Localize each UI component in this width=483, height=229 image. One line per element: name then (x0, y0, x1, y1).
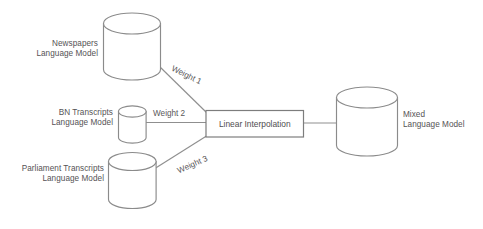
cylinder-parliament (109, 153, 157, 209)
label-bn-transcripts: BN TranscriptsLanguage Model (0, 108, 113, 129)
label-linear-interpolation: Linear Interpolation (206, 119, 304, 129)
label-mixed-line1: Mixed (403, 110, 425, 119)
label-newspapers-line2: Language Model (36, 49, 98, 58)
label-mixed: MixedLanguage Model (403, 110, 483, 131)
label-parliament-line1: Parliament Transcripts (22, 164, 104, 173)
diagram-canvas: NewspapersLanguage Model BN TranscriptsL… (0, 0, 483, 229)
cylinder-bn-transcripts (119, 106, 147, 143)
cylinder-mixed (337, 87, 398, 156)
label-parliament: Parliament TranscriptsLanguage Model (0, 164, 104, 185)
label-newspapers-line1: Newspapers (52, 39, 98, 48)
label-weight-2: Weight 2 (153, 109, 185, 118)
label-newspapers: NewspapersLanguage Model (0, 39, 98, 60)
label-parliament-line2: Language Model (42, 174, 104, 183)
label-bn-transcripts-line1: BN Transcripts (59, 108, 113, 117)
label-mixed-line2: Language Model (403, 120, 465, 129)
cylinder-newspapers (104, 13, 161, 80)
label-bn-transcripts-line2: Language Model (51, 118, 113, 127)
